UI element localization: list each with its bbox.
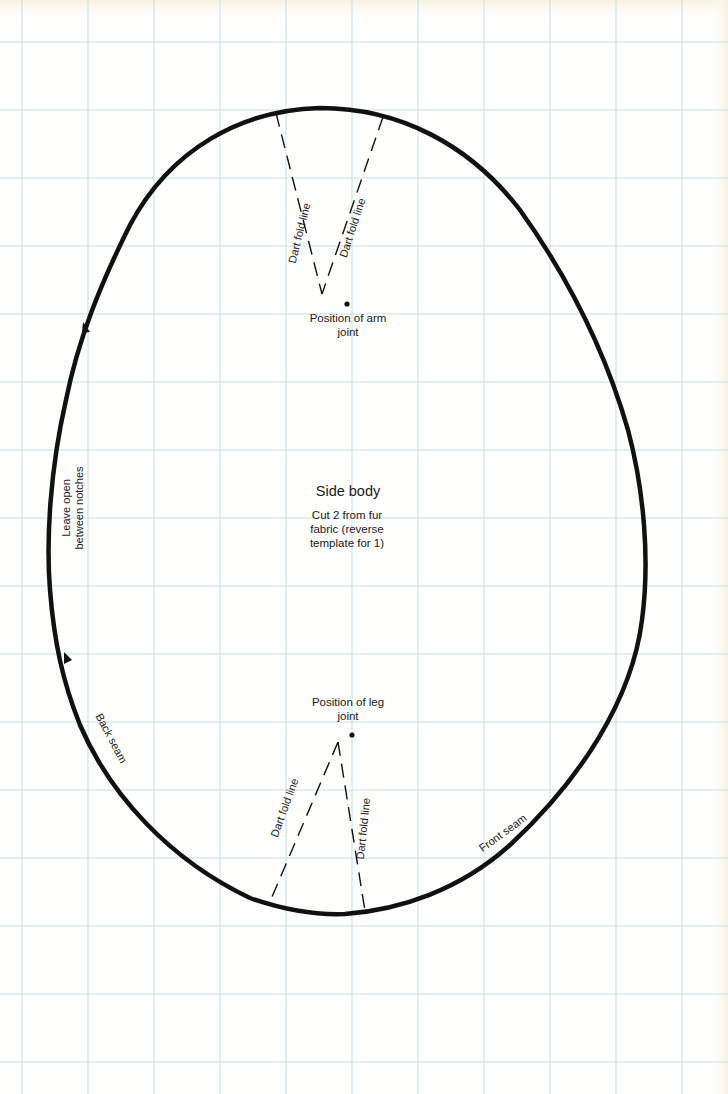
pattern-sheet: Dart fold line Dart fold line Position o… — [0, 0, 728, 1094]
instructions-line-3: template for 1) — [310, 537, 384, 549]
leg-joint-dot — [349, 732, 354, 737]
pattern-title: Side body — [316, 483, 381, 499]
instructions-line-2: fabric (reverse — [310, 523, 384, 535]
arm-joint-label-2: joint — [336, 326, 359, 338]
leave-open-label-2: between notches — [73, 466, 85, 550]
instructions-line-1: Cut 2 from fur — [312, 509, 382, 521]
leg-joint-label-2: joint — [336, 710, 359, 722]
arm-joint-label-1: Position of arm — [310, 312, 387, 324]
leave-open-label-1: Leave open — [60, 479, 72, 537]
leg-joint-label-1: Position of leg — [312, 696, 384, 708]
arm-joint-dot — [344, 301, 349, 306]
